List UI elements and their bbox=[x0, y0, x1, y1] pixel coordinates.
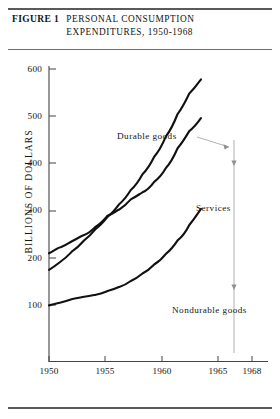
axis-lines bbox=[49, 66, 268, 362]
data-series bbox=[49, 79, 201, 305]
leader-lines bbox=[197, 137, 237, 353]
series-durable-goods bbox=[49, 209, 201, 306]
chart-canvas bbox=[0, 0, 280, 419]
annotation-durable-goods: Durable goods bbox=[117, 131, 177, 141]
annotation-nondurable-goods: Nondurable goods bbox=[172, 305, 247, 315]
figure-panel: FIGURE 1PERSONAL CONSUMPTIONEXPENDITURES… bbox=[0, 0, 280, 419]
annotation-services: Services bbox=[196, 203, 231, 213]
